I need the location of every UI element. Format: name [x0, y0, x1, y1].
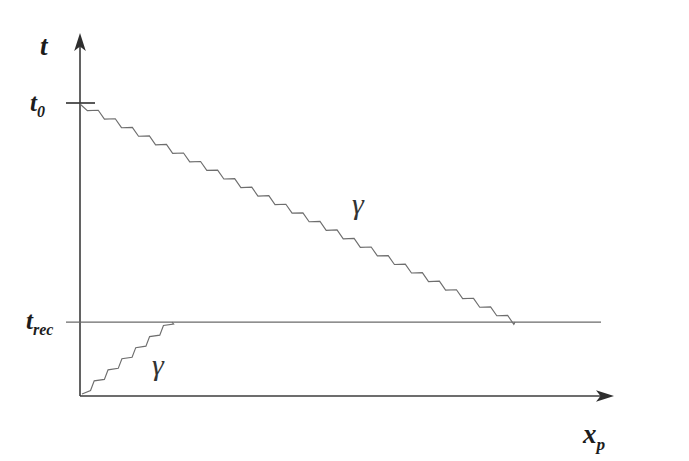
diagram-canvas: t xp t0 trec γ γ [0, 0, 689, 461]
time-axis-label: t [40, 31, 49, 61]
tick-label-t0: t0 [30, 89, 45, 120]
tick-label-trec: trec [26, 307, 53, 338]
position-axis-label: xp [582, 419, 606, 454]
photon-worldline-incoming [80, 104, 515, 324]
spacetime-diagram-figure: t xp t0 trec γ γ [0, 0, 689, 461]
gamma-label-incoming: γ [352, 187, 365, 220]
gamma-label-outgoing: γ [152, 348, 165, 381]
